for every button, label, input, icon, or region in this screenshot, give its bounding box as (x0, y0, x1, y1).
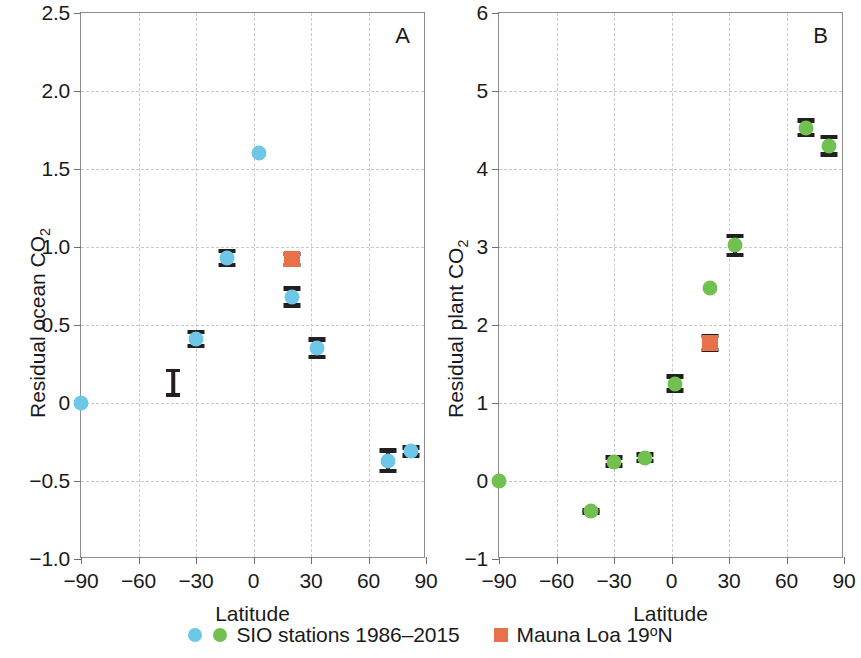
panel-b-y-axis-title-text: Residual plant CO (444, 248, 467, 418)
legend-swatch-sio (188, 628, 227, 642)
panel-b-marker-circle (607, 454, 622, 469)
panel-b-y-tick-label: 6 (477, 1, 488, 25)
panel-a-y-axis-title-sub: 2 (37, 228, 53, 236)
figure-root: A −90−60−300306090−1.0−0.500.51.01.52.02… (0, 0, 861, 658)
panel-b-gridline-horizontal (499, 91, 842, 92)
panel-a-y-axis-title: Residual ocean CO2 (26, 228, 50, 418)
panel-a-y-tick-label: 2.0 (41, 79, 70, 103)
panel-b-marker-circle (584, 504, 599, 519)
panel-a-marker-circle (284, 289, 299, 304)
panel-b-y-tick-label: 3 (477, 235, 488, 259)
panel-a-x-tick (81, 557, 82, 564)
panel-b-y-axis-title: Residual plant CO2 (444, 240, 468, 418)
legend-label-mauna-loa: Mauna Loa 19oN (517, 623, 673, 647)
panel-b-y-tick-label: 2 (477, 313, 488, 337)
panel-a-x-tick-label: 30 (300, 569, 323, 593)
panel-a-marker-circle (380, 453, 395, 468)
panel-a-y-tick-label: 0 (59, 391, 70, 415)
panel-a-x-tick-label: 60 (357, 569, 380, 593)
panel-b-x-tick-label: 0 (666, 569, 677, 593)
panel-a-marker-square (284, 251, 300, 267)
panel-a-x-tick (426, 557, 427, 564)
panel-a-x-tick (196, 557, 197, 564)
panel-b-letter: B (813, 23, 828, 49)
panel-b-gridline-horizontal (499, 325, 842, 326)
panel-a-scale-indicator-cap-upper (166, 369, 180, 373)
panel-b-x-tick (614, 557, 615, 564)
panel-a-marker-circle (189, 332, 204, 347)
panel-a-y-tick-label: 1.5 (41, 157, 70, 181)
panel-b-y-tick-label: 1 (477, 391, 488, 415)
panel-b-y-tick (492, 13, 499, 14)
panel-a-y-tick (74, 169, 81, 170)
panel-b-x-tick-label: −90 (481, 569, 516, 593)
panel-a-plot-area: A −90−60−300306090−1.0−0.500.51.01.52.02… (80, 12, 425, 558)
panel-a-y-tick (74, 559, 81, 560)
panel-b-y-tick-label: 4 (477, 157, 488, 181)
panel-a-y-tick (74, 481, 81, 482)
panel-a-marker-circle (309, 341, 324, 356)
panel-b-gridline-vertical (557, 13, 558, 557)
panel-a-gridline-vertical (311, 13, 312, 557)
panel-b-marker-circle (668, 376, 683, 391)
panel-a-x-tick (369, 557, 370, 564)
panel-b-gridline-horizontal (499, 481, 842, 482)
panel-b-marker-circle (821, 138, 836, 153)
panel-b-plot-area: B −90−60−300306090−10123456Latitude (498, 12, 843, 558)
panel-b: B −90−60−300306090−10123456Latitude Resi… (452, 0, 861, 600)
panel-b-marker-circle (702, 280, 717, 295)
panel-a-gridline-horizontal (81, 403, 424, 404)
panel-b-y-tick (492, 325, 499, 326)
panel-a-x-tick-label: −90 (63, 569, 98, 593)
panel-a-x-tick-label: 90 (415, 569, 438, 593)
panel-a-y-axis-title-text: Residual ocean CO (26, 236, 49, 418)
panel-b-x-tick (729, 557, 730, 564)
panel-a-y-tick-label: −0.5 (29, 469, 70, 493)
panel-a-letter: A (395, 23, 410, 49)
panel-a-gridline-horizontal (81, 325, 424, 326)
panel-b-gridline-vertical (614, 13, 615, 557)
panel-b-y-tick-label: 5 (477, 79, 488, 103)
panel-a-error-bar-cap-upper (379, 448, 396, 453)
panel-b-y-axis-title-sub: 2 (455, 240, 471, 248)
legend-item-sio-stations: SIO stations 1986–2015 (188, 623, 459, 647)
panel-a-y-tick-label: 2.5 (41, 1, 70, 25)
panel-b-y-tick (492, 91, 499, 92)
panel-a-marker-circle (74, 396, 89, 411)
panel-a-error-scale-indicator (166, 369, 180, 397)
panel-a-gridline-horizontal (81, 169, 424, 170)
panel-b-marker-square (702, 335, 718, 351)
panel-b-y-tick (492, 559, 499, 560)
panel-a-x-tick-label: 0 (248, 569, 259, 593)
panel-b-y-tick (492, 247, 499, 248)
panel-a-gridline-vertical (369, 13, 370, 557)
panel-b-y-tick-label: 0 (477, 469, 488, 493)
panel-a-marker-circle (219, 250, 234, 265)
panel-b-x-tick (787, 557, 788, 564)
panel-a-gridline-horizontal (81, 481, 424, 482)
panel-a-gridline-horizontal (81, 91, 424, 92)
panel-b-x-tick-label: −30 (596, 569, 631, 593)
panel-a-y-tick (74, 247, 81, 248)
legend: SIO stations 1986–2015 Mauna Loa 19oN (0, 612, 861, 658)
panel-b-y-tick-label: −1 (464, 547, 488, 571)
panel-a: A −90−60−300306090−1.0−0.500.51.01.52.02… (0, 0, 452, 600)
legend-circle-green-icon (213, 628, 227, 642)
panel-b-x-tick-label: 60 (775, 569, 798, 593)
panel-b-error-bar-cap-lower (726, 253, 743, 258)
panel-b-x-tick (844, 557, 845, 564)
panel-a-y-tick (74, 13, 81, 14)
panel-a-marker-circle (403, 444, 418, 459)
panel-a-x-tick-label: −30 (178, 569, 213, 593)
legend-circle-blue-icon (188, 628, 202, 642)
panel-b-x-tick-label: 90 (833, 569, 856, 593)
legend-label-mauna-loa-suffix: N (657, 623, 672, 646)
panel-a-y-tick (74, 91, 81, 92)
panel-b-x-tick (672, 557, 673, 564)
panel-b-marker-circle (492, 474, 507, 489)
legend-label-degree-sign: o (650, 623, 658, 639)
panel-b-gridline-vertical (729, 13, 730, 557)
panel-b-gridline-vertical (787, 13, 788, 557)
panel-a-gridline-vertical (196, 13, 197, 557)
panel-a-x-tick-label: −60 (121, 569, 156, 593)
